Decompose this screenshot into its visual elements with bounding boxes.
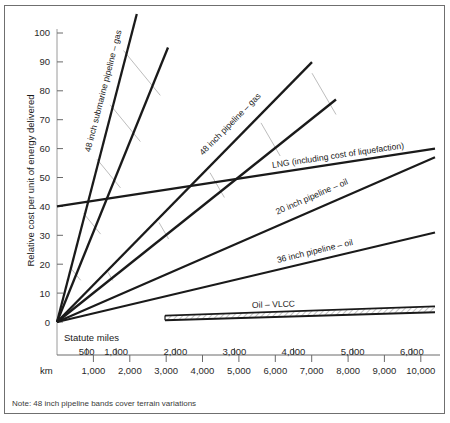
- x-tick-label-miles-6000: 6,000: [389, 346, 435, 357]
- x-tick-label-miles-1000: 1,000: [93, 346, 139, 357]
- x-tick-label-miles-3000: 3,000: [211, 346, 257, 357]
- x-axis-title-km: km: [40, 365, 53, 376]
- series-submarine-gas-upper: [57, 14, 137, 322]
- x-tick-label-miles-4000: 4,000: [271, 346, 317, 357]
- y-tick-label-90: 90: [24, 56, 50, 67]
- chart-canvas: [0, 0, 450, 423]
- x-tick-label-miles-2000: 2,000: [152, 346, 198, 357]
- y-tick-label-10: 10: [24, 288, 50, 299]
- y-tick-label-40: 40: [24, 201, 50, 212]
- chart-figure: Relative cost per unit of energy deliver…: [0, 0, 450, 423]
- x-axis-title-miles: Statute miles: [64, 332, 119, 343]
- y-tick-label-20: 20: [24, 259, 50, 270]
- y-tick-label-0: 0: [24, 317, 50, 328]
- y-tick-label-80: 80: [24, 85, 50, 96]
- x-tick-label-miles-5000: 5,000: [330, 346, 376, 357]
- y-tick-marks: [57, 33, 63, 322]
- y-tick-label-100: 100: [24, 27, 50, 38]
- figure-note: Note: 48 inch pipeline bands cover terra…: [12, 399, 196, 408]
- y-tick-label-50: 50: [24, 172, 50, 183]
- y-tick-label-30: 30: [24, 230, 50, 241]
- x-tick-label-km-10000: 10,000: [398, 365, 444, 376]
- y-tick-label-70: 70: [24, 114, 50, 125]
- series-lng-line: [57, 149, 435, 207]
- y-tick-label-60: 60: [24, 143, 50, 154]
- series-submarine-gas-rungs: [70, 51, 160, 281]
